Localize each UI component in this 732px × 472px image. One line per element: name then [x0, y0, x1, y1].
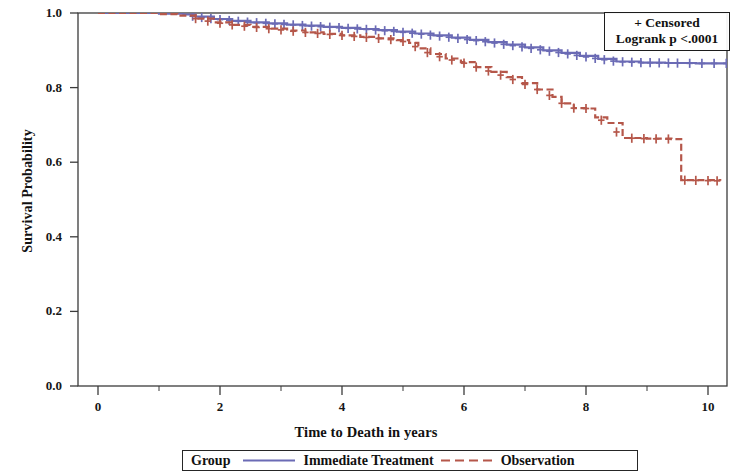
- y-axis-ticks: [70, 13, 78, 386]
- legend-entry-immediate-treatment: Immediate Treatment: [236, 453, 433, 469]
- group-legend-title: Group: [183, 453, 236, 469]
- legend-label-observation: Observation: [501, 453, 575, 469]
- legend-label-immediate-treatment: Immediate Treatment: [303, 453, 433, 469]
- legend-entry-observation: Observation: [434, 453, 575, 469]
- x-tick-label-6: 6: [447, 399, 481, 415]
- statistics-legend-box: + Censored Logrank p <.0001: [604, 12, 730, 51]
- logrank-pvalue-label: Logrank p <.0001: [609, 31, 725, 47]
- plot-frame: [78, 13, 727, 386]
- x-tick-label-0: 0: [81, 399, 115, 415]
- x-tick-label-10: 10: [691, 399, 725, 415]
- y-tick-label-0_2: 0.2: [22, 303, 62, 319]
- solid-line-swatch-icon: [242, 455, 296, 466]
- survival-plot-figure: 1.0 0.8 0.6 0.4 0.2 0.0 0 2 4 6 8 10 Tim…: [0, 0, 732, 472]
- x-tick-label-4: 4: [325, 399, 359, 415]
- x-tick-label-2: 2: [203, 399, 237, 415]
- x-axis-minor-ticks: [159, 386, 647, 391]
- x-axis-title: Time to Death in years: [0, 424, 732, 441]
- y-tick-label-0_0: 0.0: [22, 378, 62, 394]
- group-legend-box: Group Immediate Treatment Observation: [182, 450, 638, 471]
- y-tick-label-1_0: 1.0: [22, 5, 62, 21]
- dashed-line-swatch-icon: [440, 455, 494, 466]
- x-tick-label-8: 8: [569, 399, 603, 415]
- y-axis-title: Survival Probability: [20, 91, 36, 291]
- censored-legend-label: + Censored: [609, 15, 725, 31]
